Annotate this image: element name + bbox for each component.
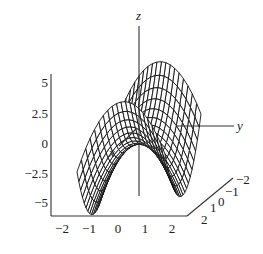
z-tick: −2.5: [24, 166, 48, 181]
saddle-surface-plot: z y x 5 2.5 0 −2.5 −5 −2 −1 0 1 2 2 1 0 …: [0, 0, 263, 254]
depth-tick: 2: [201, 212, 208, 227]
bottom-tick: 2: [169, 221, 176, 236]
depth-tick: 0: [218, 194, 225, 209]
z-tick: 5: [42, 75, 49, 90]
x-axis-label: x: [108, 145, 115, 160]
z-tick-labels: 5 2.5 0 −2.5 −5: [24, 75, 48, 210]
bottom-tick: −1: [82, 221, 96, 236]
y-axis-label: y: [235, 118, 243, 133]
bottom-tick: 1: [142, 221, 149, 236]
z-tick: 0: [42, 136, 49, 151]
depth-tick: 1: [210, 200, 217, 215]
depth-tick-labels: 2 1 0 −1 −2: [201, 172, 250, 227]
z-tick: −5: [34, 195, 48, 210]
z-axis-label: z: [135, 8, 141, 23]
bottom-tick: 0: [115, 221, 122, 236]
bottom-tick-labels: −2 −1 0 1 2: [55, 221, 175, 236]
bottom-tick: −2: [55, 221, 69, 236]
z-tick: 2.5: [32, 106, 48, 121]
depth-tick: −2: [236, 172, 250, 187]
